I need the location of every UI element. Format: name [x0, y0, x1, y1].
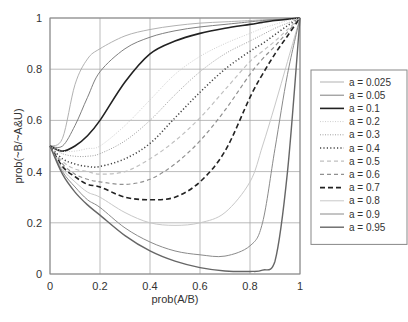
x-tick-label: 0 — [47, 280, 53, 292]
y-tick-label: 0.6 — [27, 114, 42, 126]
x-tick-label: 0.2 — [92, 280, 107, 292]
x-tick-label: 1 — [297, 280, 303, 292]
series-line — [50, 18, 300, 257]
legend-label: a = 0.95 — [349, 222, 386, 233]
x-axis-label: prob(A/B) — [151, 293, 198, 305]
x-tick-labels: 00.20.40.60.81 — [47, 280, 303, 292]
legend-label: a = 0.1 — [349, 103, 380, 114]
y-tick-label: 0.2 — [27, 217, 42, 229]
legend-label: a = 0.4 — [349, 143, 380, 154]
x-tick-label: 0.4 — [142, 280, 157, 292]
series-line — [50, 18, 300, 200]
legend-label: a = 0.05 — [349, 90, 386, 101]
series-line — [50, 18, 300, 146]
x-tick-label: 0.8 — [242, 280, 257, 292]
series-lines — [50, 18, 300, 272]
y-tick-label: 0 — [36, 268, 42, 280]
legend-label: a = 0.2 — [349, 116, 380, 127]
series-line — [50, 18, 300, 152]
series-line — [50, 18, 300, 148]
chart: 00.20.40.60.81 00.20.40.60.81 prob(A/B) … — [0, 0, 408, 322]
legend-label: a = 0.025 — [349, 77, 391, 88]
series-line — [50, 18, 300, 151]
series-line — [50, 18, 300, 184]
legend-label: a = 0.5 — [349, 156, 380, 167]
y-tick-labels: 00.20.40.60.81 — [27, 12, 42, 280]
series-line — [50, 18, 300, 225]
legend-label: a = 0.8 — [349, 195, 380, 206]
legend-label: a = 0.7 — [349, 182, 380, 193]
x-tick-label: 0.6 — [192, 280, 207, 292]
y-tick-label: 0.4 — [27, 166, 42, 178]
legend-label: a = 0.3 — [349, 129, 380, 140]
legend-label: a = 0.9 — [349, 209, 380, 220]
y-tick-label: 1 — [36, 12, 42, 24]
y-tick-label: 0.8 — [27, 63, 42, 75]
legend: a = 0.025a = 0.05a = 0.1a = 0.2a = 0.3a … — [311, 70, 407, 244]
legend-label: a = 0.6 — [349, 169, 380, 180]
y-axis-label: prob(~B/~A&U) — [12, 108, 24, 183]
